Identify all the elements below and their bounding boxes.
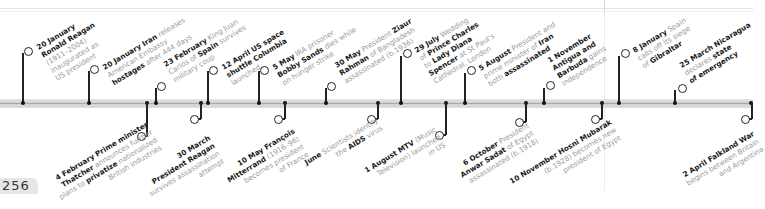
year-divider [604, 0, 605, 191]
header-rule [0, 8, 753, 9]
page-number: 256 [2, 178, 30, 193]
year-divider-tick [604, 0, 605, 12]
event-label: 10 May FrançoisMitterrand (1916–96)becom… [221, 127, 310, 200]
event-label: 20 JanuaryRonald Reagan(1911–2004)inaugu… [35, 13, 110, 83]
event-label: 2 April Falkland Warbegins between Brita… [680, 129, 765, 195]
header-rule-2 [0, 11, 753, 12]
event-label: 4 February Prime ministerThatcher announ… [48, 120, 163, 209]
